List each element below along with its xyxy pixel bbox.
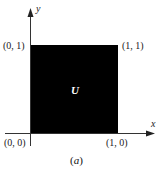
point-label-0-1: (0, 1) <box>3 41 25 51</box>
unit-square-figure: y x (0, 1) (1, 1) (0, 0) (1, 0) U (a) <box>0 0 159 170</box>
y-axis-arrow-icon <box>28 8 34 17</box>
y-axis-label: y <box>36 4 40 14</box>
x-axis-label: x <box>151 119 155 129</box>
caption-close-paren: ) <box>79 154 83 166</box>
point-label-1-1: (1, 1) <box>122 41 144 51</box>
x-axis-arrow-icon <box>146 131 155 137</box>
point-label-0-0: (0, 0) <box>4 138 26 148</box>
region-label-u: U <box>71 85 79 96</box>
figure-caption: (a) <box>70 155 83 166</box>
point-label-1-0: (1, 0) <box>106 138 128 148</box>
